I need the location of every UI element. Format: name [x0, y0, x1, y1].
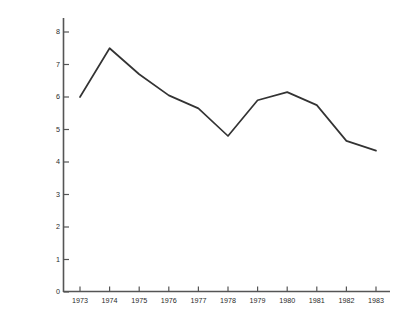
x-tick-label-1973: 1973: [65, 296, 95, 305]
x-tick-label-1976: 1976: [154, 296, 184, 305]
y-tick-label-4: 4: [42, 157, 60, 166]
y-tick-label-7: 7: [42, 60, 60, 69]
y-tick-label-2: 2: [42, 222, 60, 231]
x-tick-label-1982: 1982: [331, 296, 361, 305]
y-tick-label-8: 8: [42, 27, 60, 36]
x-tick-label-1974: 1974: [95, 296, 125, 305]
x-tick-label-1980: 1980: [272, 296, 302, 305]
x-tick-label-1978: 1978: [213, 296, 243, 305]
x-tick-label-1983: 1983: [361, 296, 391, 305]
y-tick-label-3: 3: [42, 190, 60, 199]
y-tick-label-1: 1: [42, 255, 60, 264]
y-tick-label-5: 5: [42, 125, 60, 134]
y-tick-label-6: 6: [42, 92, 60, 101]
chart-container: Average Fuel Cost of New Vehicles (1982 …: [0, 0, 399, 324]
x-tick-label-1975: 1975: [124, 296, 154, 305]
x-tick-label-1979: 1979: [243, 296, 273, 305]
x-tick-label-1981: 1981: [302, 296, 332, 305]
y-tick-label-0: 0: [42, 287, 60, 296]
x-tick-label-1977: 1977: [183, 296, 213, 305]
